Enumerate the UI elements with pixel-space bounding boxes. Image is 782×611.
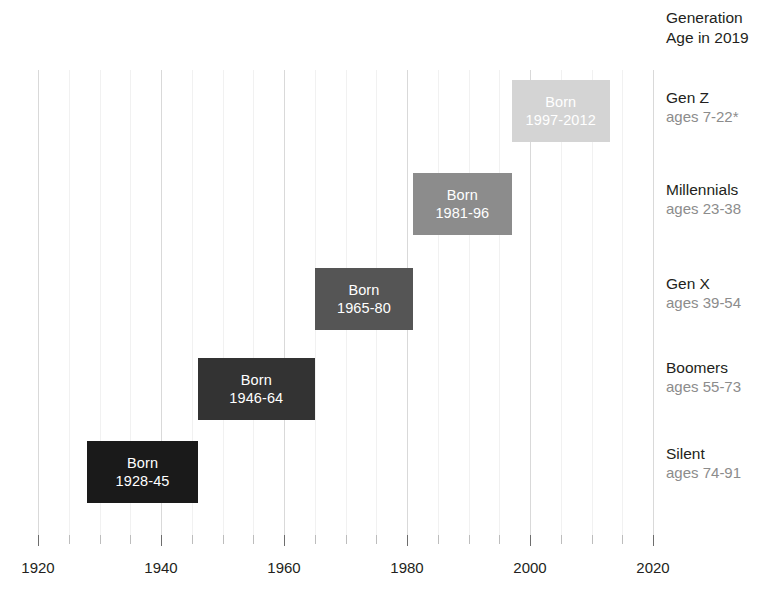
legend-age-range: ages 7-22*	[666, 107, 782, 126]
legend-row: Boomersages 55-73	[666, 358, 782, 396]
generation-bar: Born1946-64	[198, 358, 315, 420]
axis-tick-minor	[130, 535, 131, 544]
axis-tick-minor	[253, 535, 254, 544]
axis-tick-label: 1920	[21, 559, 54, 576]
axis-tick-label: 2000	[513, 559, 546, 576]
axis-tick-label: 1980	[390, 559, 423, 576]
legend-generation-name: Gen X	[666, 274, 782, 293]
bar-label-years: 1946-64	[229, 389, 283, 407]
axis-tick-minor	[499, 535, 500, 544]
legend-age-range: ages 23-38	[666, 199, 782, 218]
axis-tick-major	[284, 535, 285, 546]
bar-label-years: 1928-45	[116, 472, 170, 490]
legend-generation-name: Boomers	[666, 358, 782, 377]
axis-tick-minor	[69, 535, 70, 544]
bar-label-years: 1997-2012	[526, 111, 596, 129]
axis-tick-major	[161, 535, 162, 546]
plot-area: Born1997-2012Born1981-96Born1965-80Born1…	[38, 70, 653, 535]
axis-tick-minor	[315, 535, 316, 544]
generation-bar: Born1997-2012	[512, 80, 610, 142]
chart-canvas: Generation Age in 2019 Born1997-2012Born…	[0, 0, 782, 611]
axis-tick-minor	[192, 535, 193, 544]
generation-bar: Born1981-96	[413, 173, 511, 235]
axis-tick-minor	[592, 535, 593, 544]
gridline-minor	[469, 70, 470, 535]
bar-label-born: Born	[127, 454, 158, 472]
legend-row: Gen Zages 7-22*	[666, 88, 782, 126]
axis-tick-minor	[438, 535, 439, 544]
legend-row: Millennialsages 23-38	[666, 180, 782, 218]
legend-age-range: ages 55-73	[666, 377, 782, 396]
legend-header-line1: Generation	[666, 8, 782, 28]
axis-tick-minor	[346, 535, 347, 544]
gridline-major	[38, 70, 39, 535]
gridline-minor	[69, 70, 70, 535]
axis-tick-major	[530, 535, 531, 546]
bar-label-years: 1965-80	[337, 299, 391, 317]
legend-header-line2: Age in 2019	[666, 28, 782, 48]
legend-age-range: ages 39-54	[666, 293, 782, 312]
legend-age-range: ages 74-91	[666, 463, 782, 482]
gridline-minor	[622, 70, 623, 535]
axis-tick-major	[38, 535, 39, 546]
axis-tick-minor	[100, 535, 101, 544]
axis-tick-label: 2020	[636, 559, 669, 576]
axis-tick-major	[407, 535, 408, 546]
axis-tick-label: 1960	[267, 559, 300, 576]
axis-tick-minor	[469, 535, 470, 544]
axis-tick-minor	[376, 535, 377, 544]
legend-header: Generation Age in 2019	[666, 8, 782, 48]
axis-tick-major	[653, 535, 654, 546]
generation-bar: Born1928-45	[87, 441, 198, 503]
gridline-minor	[438, 70, 439, 535]
gridline-minor	[223, 70, 224, 535]
legend-generation-name: Silent	[666, 444, 782, 463]
bar-label-years: 1981-96	[435, 204, 489, 222]
axis-tick-minor	[223, 535, 224, 544]
gridline-major	[284, 70, 285, 535]
legend-row: Gen Xages 39-54	[666, 274, 782, 312]
gridline-minor	[253, 70, 254, 535]
gridline-minor	[499, 70, 500, 535]
axis-tick-minor	[622, 535, 623, 544]
legend-row: Silentages 74-91	[666, 444, 782, 482]
generation-bar: Born1965-80	[315, 268, 413, 330]
x-axis: 192019401960198020002020	[38, 535, 653, 605]
legend-generation-name: Gen Z	[666, 88, 782, 107]
bar-label-born: Born	[447, 186, 478, 204]
axis-tick-minor	[561, 535, 562, 544]
bar-label-born: Born	[348, 281, 379, 299]
bar-label-born: Born	[545, 93, 576, 111]
legend-generation-name: Millennials	[666, 180, 782, 199]
axis-tick-label: 1940	[144, 559, 177, 576]
gridline-major	[653, 70, 654, 535]
bar-label-born: Born	[241, 371, 272, 389]
